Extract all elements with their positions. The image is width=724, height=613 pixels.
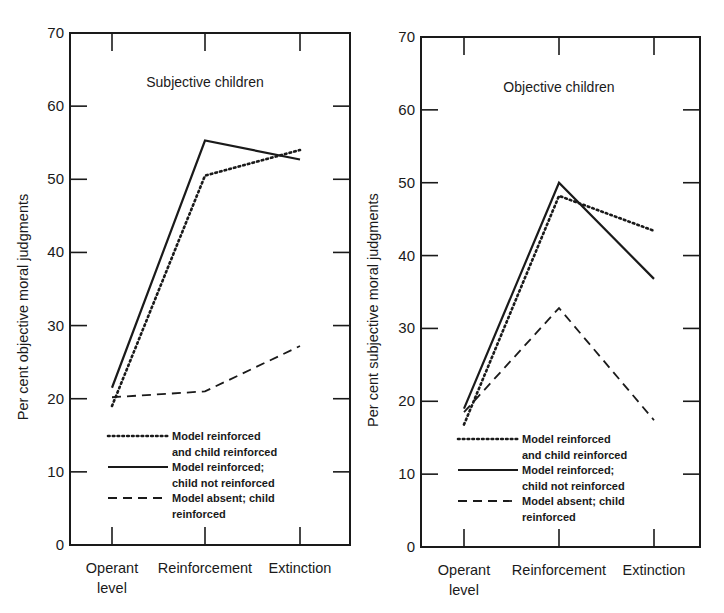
series-line-solid xyxy=(112,141,300,388)
x-category-label: Reinforcement xyxy=(158,560,252,576)
legend-label: child not reinforced xyxy=(522,480,625,492)
legend-label: Model reinforced xyxy=(172,430,261,442)
x-category-label: level xyxy=(449,582,479,598)
y-tick-label: 50 xyxy=(47,170,64,187)
x-category-label: Operant xyxy=(438,562,490,578)
chart-title: Subjective children xyxy=(146,74,264,90)
legend-label: Model reinforced; xyxy=(172,461,264,473)
y-tick-label: 0 xyxy=(407,538,415,555)
y-tick-label: 10 xyxy=(398,465,415,482)
y-tick-label: 40 xyxy=(398,247,415,264)
x-category-label: level xyxy=(97,580,127,596)
chart-panel-objective-children: 010203040506070OperantlevelReinforcement… xyxy=(365,28,700,598)
y-tick-label: 30 xyxy=(47,317,64,334)
y-tick-label: 0 xyxy=(56,536,64,553)
chart-title: Objective children xyxy=(503,79,614,95)
y-tick-label: 10 xyxy=(47,463,64,480)
legend-label: Model absent; child xyxy=(522,495,625,507)
legend-label: Model reinforced xyxy=(522,433,611,445)
legend-label: Model absent; child xyxy=(172,492,275,504)
y-tick-label: 70 xyxy=(398,28,415,45)
y-tick-label: 30 xyxy=(398,319,415,336)
legend-label: reinforced xyxy=(172,508,226,520)
y-tick-label: 70 xyxy=(47,24,64,41)
x-category-label: Reinforcement xyxy=(512,562,606,578)
series-line-dashed xyxy=(464,308,654,420)
legend-label: reinforced xyxy=(522,511,576,523)
y-tick-label: 20 xyxy=(398,392,415,409)
chart-canvas: 010203040506070OperantlevelReinforcement… xyxy=(0,0,724,613)
y-axis-label: Per cent subjective moral judgments xyxy=(365,193,381,427)
y-tick-label: 20 xyxy=(47,390,64,407)
y-tick-label: 50 xyxy=(398,174,415,191)
legend-label: child not reinforced xyxy=(172,477,275,489)
x-category-label: Operant xyxy=(86,560,138,576)
y-tick-label: 60 xyxy=(47,97,64,114)
y-tick-label: 40 xyxy=(47,243,64,260)
y-axis-label: Per cent objective moral judgments xyxy=(15,194,31,420)
x-category-label: Extinction xyxy=(623,562,686,578)
y-tick-label: 60 xyxy=(398,101,415,118)
legend-label: and child reinforced xyxy=(522,449,627,461)
series-line-solid xyxy=(464,183,654,409)
legend-label: Model reinforced; xyxy=(522,464,614,476)
series-line-dashed xyxy=(112,346,300,397)
x-category-label: Extinction xyxy=(269,560,332,576)
series-line-dotted xyxy=(112,150,300,406)
series-line-dotted xyxy=(464,196,654,425)
legend-label: and child reinforced xyxy=(172,446,277,458)
chart-panel-subjective-children: 010203040506070OperantlevelReinforcement… xyxy=(15,24,350,596)
